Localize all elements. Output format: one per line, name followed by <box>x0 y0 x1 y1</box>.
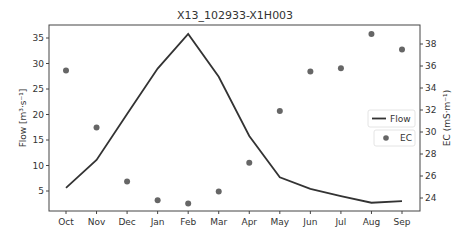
x-tick-label: Mar <box>210 217 227 227</box>
y-tick-label-right: 32 <box>425 105 436 115</box>
flow-series-line <box>66 34 402 203</box>
ec-point <box>338 65 344 71</box>
y-tick-label: 20 <box>33 110 45 120</box>
x-tick-label: Nov <box>88 217 106 227</box>
ec-point <box>399 47 405 53</box>
x-tick-label: Feb <box>180 217 196 227</box>
ec-series-points <box>63 31 405 206</box>
legend: Flow EC <box>368 110 415 146</box>
x-tick-label: Aug <box>363 217 381 227</box>
y-tick-label-right: 34 <box>425 83 437 93</box>
y-tick-label: 25 <box>33 84 44 94</box>
ec-point <box>94 125 100 131</box>
legend-label-flow: Flow <box>390 114 411 124</box>
y-tick-label: 30 <box>33 59 45 69</box>
x-tick-label: May <box>271 217 290 227</box>
x-tick-label: Dec <box>118 217 135 227</box>
y-tick-label-right: 36 <box>425 61 437 71</box>
x-tick-label: Jan <box>150 217 165 227</box>
y-tick-label-right: 30 <box>425 127 437 137</box>
y-axis-right: 2426283032343638 <box>420 39 437 203</box>
x-tick-label: Sep <box>394 217 411 227</box>
ec-point <box>368 31 374 37</box>
legend-dot-icon <box>383 135 389 141</box>
y-tick-label: 35 <box>33 33 44 43</box>
y-tick-label: 15 <box>33 135 44 145</box>
y-axis-right-label: EC (mS·m⁻¹) <box>442 90 452 146</box>
y-tick-label: 10 <box>33 161 45 171</box>
chart-title: X13_102933-X1H003 <box>177 9 293 22</box>
y-tick-label: 5 <box>38 186 44 196</box>
x-tick-label: Apr <box>241 217 257 227</box>
x-tick-label: Oct <box>58 217 74 227</box>
x-tick-label: Jun <box>302 217 317 227</box>
legend-label-ec: EC <box>400 133 412 143</box>
y-tick-label-right: 28 <box>425 149 437 159</box>
ec-point <box>124 179 130 185</box>
y-tick-label-right: 24 <box>425 193 437 203</box>
y-axis-left: 5101520253035 <box>33 33 49 196</box>
y-tick-label-right: 38 <box>425 39 437 49</box>
plot-area <box>49 25 420 211</box>
y-tick-label-right: 26 <box>425 171 437 181</box>
ec-point <box>185 201 191 207</box>
ec-point <box>246 160 252 166</box>
ec-point <box>63 67 69 73</box>
x-tick-label: Jul <box>334 217 346 227</box>
ec-point <box>307 69 313 75</box>
ec-point <box>277 108 283 114</box>
x-axis: OctNovDecJanFebMarAprMayJunJulAugSep <box>58 211 411 227</box>
chart: X13_102933-X1H003 OctNovDecJanFebMarAprM… <box>0 0 467 240</box>
ec-point <box>155 197 161 203</box>
y-axis-left-label: Flow [m³·s⁻¹] <box>18 89 28 148</box>
ec-point <box>216 188 222 194</box>
